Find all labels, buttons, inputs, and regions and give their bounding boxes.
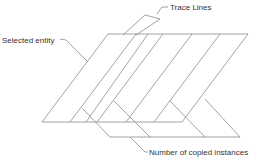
- trace-line: [136, 19, 160, 35]
- trace-line: [123, 15, 145, 35]
- label-trace-lines: Trace Lines: [170, 4, 212, 12]
- label-copied-instances: Number of copied instances: [149, 149, 248, 157]
- trace-line: [145, 15, 160, 19]
- selected-entity-edge: [42, 34, 108, 122]
- linear-pattern-diagram: [0, 0, 258, 161]
- label-selected-entity: Selected entity: [2, 37, 54, 45]
